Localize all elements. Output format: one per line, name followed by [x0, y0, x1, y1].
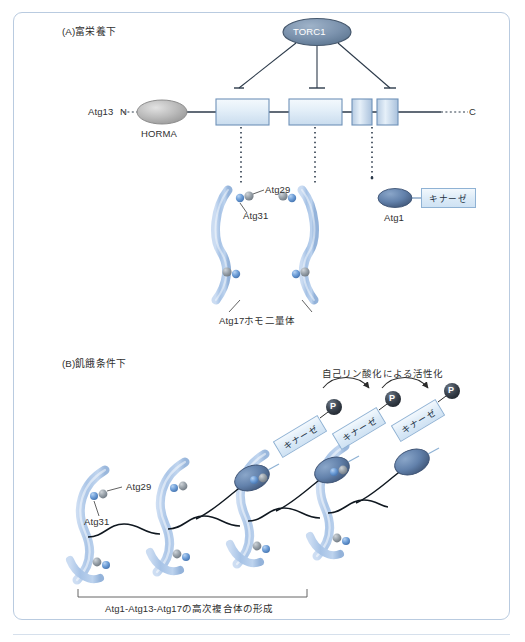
atg13-domain-box-2 [289, 99, 342, 125]
panel-b-label: (B)飢餓条件下 [62, 356, 126, 370]
horma-domain [137, 100, 187, 124]
atg1-label: Atg1 [384, 212, 404, 223]
complex-lower-tails [70, 536, 340, 579]
n-terminus-label: N [120, 106, 127, 117]
panel-b-leader-lines [94, 487, 122, 516]
figure-canvas: (A)富栄養下 TORC1 Atg13 N C HORMA Atg29 Atg3… [0, 0, 525, 642]
atg17-monomer-right [302, 190, 314, 300]
horma-label: HORMA [141, 128, 177, 139]
panel-a-label: (A)富栄養下 [62, 24, 116, 38]
panel-a-leader-lines [229, 190, 312, 312]
phospho-label: P [330, 401, 336, 411]
atg31-label: Atg31 [84, 516, 109, 527]
phospho-label: P [448, 385, 454, 395]
c-terminus-label: C [469, 106, 476, 117]
tether-terminus-dot [371, 177, 374, 180]
atg29-bead [244, 191, 253, 200]
atg1-node [378, 189, 412, 208]
atg17-monomer-left [216, 190, 228, 300]
atg17-homodimer-label: Atg17ホモ二量体 [219, 313, 295, 327]
atg13-domain-box-3 [352, 99, 372, 125]
atg29-bead [222, 267, 231, 276]
atg13-binding-tethers [241, 127, 372, 185]
atg31-bead [232, 270, 240, 278]
complex-formation-caption: Atg1-Atg13-Atg17の高次複合体の形成 [105, 601, 273, 615]
atg13-domain-box-1 [216, 99, 269, 125]
atg13-protein-label: Atg13 [88, 106, 113, 117]
atg29-label: Atg29 [265, 184, 290, 195]
atg31-label: Atg31 [243, 210, 268, 221]
atg1-kinase-box: キナーゼ [421, 188, 476, 208]
torc1-label: TORC1 [293, 26, 326, 37]
atg31-bead [292, 270, 300, 278]
complex-bracket [78, 589, 307, 597]
atg13-domain-box-4 [377, 99, 398, 125]
panel-a-graphics [123, 19, 468, 313]
atg31-bead [288, 194, 296, 202]
torc1-inhibition-lines [234, 43, 396, 88]
autophosphorylation-label: 自己リン酸化による活性化 [322, 366, 443, 380]
atg29-bead [300, 267, 309, 276]
atg31-bead [236, 194, 244, 202]
atg29-label: Atg29 [126, 481, 151, 492]
phospho-label: P [389, 393, 395, 403]
